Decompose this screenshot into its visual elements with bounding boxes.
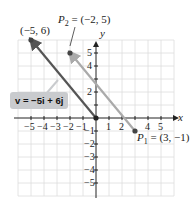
- label-neg5-6: (−5, 6): [20, 25, 50, 36]
- y-axis-label: y: [100, 28, 105, 39]
- label-p1: P1 = (3, −1): [137, 132, 189, 146]
- x-axis-label: x: [178, 112, 183, 123]
- point-origin: [93, 115, 98, 120]
- p2-callout-line: [70, 27, 75, 46]
- point-p2: [67, 50, 72, 55]
- vector-label-box: v = −5i + 6j: [10, 92, 68, 109]
- point-neg5-6: [28, 37, 33, 42]
